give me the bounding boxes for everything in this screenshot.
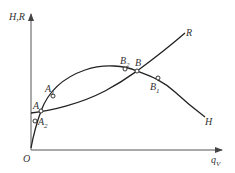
point-B <box>135 69 139 73</box>
curve-H-label: H <box>204 116 213 127</box>
curve-R-label: R <box>185 27 192 38</box>
curve-H <box>31 66 205 148</box>
curve-R <box>31 33 185 113</box>
characteristic-curves-diagram: H,R O qV R H A A1 A2 B B1 B2 <box>0 0 235 173</box>
point-A2-label: A2 <box>37 116 48 130</box>
y-axis-label: H,R <box>8 11 25 22</box>
point-A-label: A <box>32 100 40 111</box>
diagram-canvas: H,R O qV R H A A1 A2 B B1 B2 <box>0 0 235 173</box>
point-B1 <box>156 76 160 80</box>
point-B1-label: B1 <box>150 81 160 95</box>
origin-label: O <box>23 153 30 164</box>
point-B-label: B <box>135 57 141 68</box>
point-A2 <box>33 119 37 123</box>
x-axis-label: qV <box>211 154 221 168</box>
point-A <box>39 109 43 113</box>
